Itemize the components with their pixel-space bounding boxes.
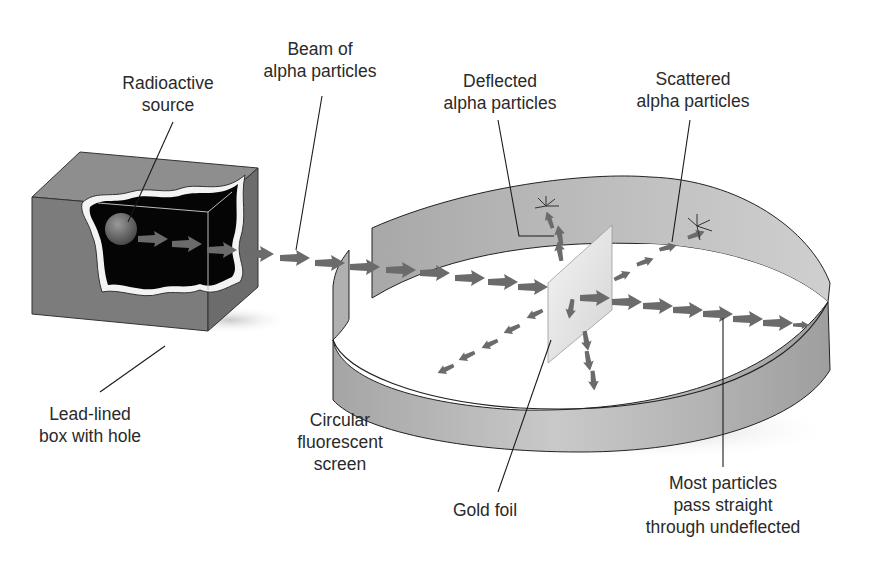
label-box-line2: box with hole: [20, 425, 160, 447]
label-box: Lead-lined box with hole: [20, 403, 160, 447]
label-deflected-line1: Deflected: [425, 70, 575, 92]
label-undeflected-line1: Most particles: [618, 472, 828, 494]
label-scattered: Scattered alpha particles: [618, 68, 768, 112]
label-scattered-line1: Scattered: [618, 68, 768, 90]
leader-beam: [296, 96, 322, 250]
label-box-line1: Lead-lined: [20, 403, 160, 425]
radioactive-source-sphere: [105, 213, 137, 245]
label-source: Radioactive source: [108, 72, 228, 116]
label-beam: Beam of alpha particles: [245, 38, 395, 82]
label-source-line2: source: [108, 94, 228, 116]
label-source-line1: Radioactive: [108, 72, 228, 94]
label-undeflected: Most particles pass straight through und…: [618, 472, 828, 538]
label-deflected-line2: alpha particles: [425, 92, 575, 114]
label-foil-line1: Gold foil: [430, 499, 540, 521]
label-deflected: Deflected alpha particles: [425, 70, 575, 114]
label-screen-line3: screen: [280, 453, 400, 475]
label-beam-line2: alpha particles: [245, 60, 395, 82]
gold-foil-diagram: Beam of alpha particles Radioactive sour…: [0, 0, 871, 564]
label-screen-line1: Circular: [280, 409, 400, 431]
label-screen: Circular fluorescent screen: [280, 409, 400, 475]
label-beam-line1: Beam of: [245, 38, 395, 60]
label-undeflected-line2: pass straight: [618, 494, 828, 516]
label-scattered-line2: alpha particles: [618, 90, 768, 112]
leader-box: [100, 346, 165, 392]
label-screen-line2: fluorescent: [280, 431, 400, 453]
label-undeflected-line3: through undeflected: [618, 516, 828, 538]
label-foil: Gold foil: [430, 499, 540, 521]
